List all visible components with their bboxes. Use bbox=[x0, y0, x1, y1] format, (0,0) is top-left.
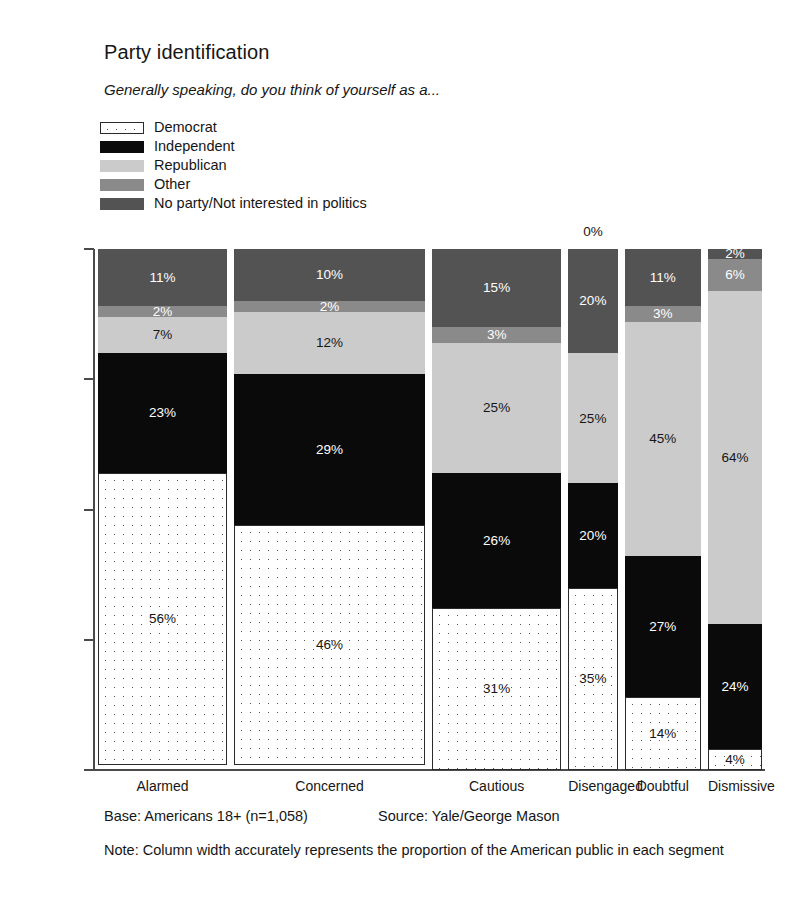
bar-segment-dismissive-noparty[interactable]: 2% bbox=[708, 249, 762, 259]
bar-doubtful[interactable]: 11%3%45%27%14% bbox=[625, 249, 701, 770]
bar-segment-concerned-other[interactable]: 2% bbox=[234, 301, 425, 311]
legend-label: Independent bbox=[154, 139, 235, 154]
segment-value-label: 3% bbox=[653, 307, 673, 321]
segment-value-label: 2% bbox=[725, 249, 745, 259]
bar-segment-dismissive-other[interactable]: 6% bbox=[708, 259, 762, 290]
chart-subtitle: Generally speaking, do you think of your… bbox=[104, 81, 440, 98]
segment-value-label: 45% bbox=[649, 432, 676, 446]
bar-segment-disengaged-noparty[interactable]: 20% bbox=[568, 249, 617, 353]
y-axis-tick bbox=[84, 248, 94, 250]
bar-segment-alarmed-noparty[interactable]: 11% bbox=[98, 249, 227, 306]
bar-dismissive[interactable]: 2%6%64%24%4% bbox=[708, 249, 762, 770]
bar-segment-cautious-democrat[interactable]: 31% bbox=[432, 608, 561, 770]
legend-item-noparty: No party/Not interested in politics bbox=[100, 194, 520, 213]
y-axis-tick bbox=[84, 769, 94, 771]
segment-value-label: 46% bbox=[316, 638, 343, 652]
bar-segment-doubtful-noparty[interactable]: 11% bbox=[625, 249, 701, 306]
segment-value-label: 14% bbox=[649, 727, 676, 741]
segment-value-label: 26% bbox=[483, 534, 510, 548]
bar-segment-concerned-democrat[interactable]: 46% bbox=[234, 525, 425, 765]
chart-page: Party identification Generally speaking,… bbox=[0, 0, 806, 903]
legend-swatch-independent-icon bbox=[100, 141, 144, 153]
legend-swatch-republican-icon bbox=[100, 160, 144, 172]
segment-value-label: 64% bbox=[721, 451, 748, 465]
bar-segment-disengaged-republican[interactable]: 25% bbox=[568, 353, 617, 483]
segment-value-label: 7% bbox=[153, 328, 173, 342]
annotation-zero-percent: 0% bbox=[568, 224, 617, 239]
segment-value-label: 15% bbox=[483, 281, 510, 295]
bar-segment-dismissive-democrat[interactable]: 4% bbox=[708, 749, 762, 770]
x-category-label-dismissive: Dismissive bbox=[708, 778, 762, 794]
legend-label: Other bbox=[154, 177, 190, 192]
segment-value-label: 11% bbox=[650, 271, 676, 285]
bar-alarmed[interactable]: 11%2%7%23%56% bbox=[98, 249, 227, 770]
plot-bars: 11%2%7%23%56%10%2%12%29%46%15%3%25%26%31… bbox=[95, 249, 765, 770]
bar-segment-doubtful-democrat[interactable]: 14% bbox=[625, 697, 701, 770]
x-category-label-disengaged: Disengaged bbox=[568, 778, 617, 794]
segment-value-label: 4% bbox=[725, 753, 745, 767]
legend-label: Democrat bbox=[154, 120, 217, 135]
segment-value-label: 25% bbox=[579, 412, 606, 426]
bar-disengaged[interactable]: 20%25%20%35% bbox=[568, 249, 617, 770]
segment-value-label: 56% bbox=[149, 612, 176, 626]
segment-value-label: 3% bbox=[487, 328, 507, 342]
legend-label: No party/Not interested in politics bbox=[154, 196, 367, 211]
segment-value-label: 10% bbox=[316, 268, 343, 282]
bar-segment-alarmed-democrat[interactable]: 56% bbox=[98, 473, 227, 765]
legend-item-republican: Republican bbox=[100, 156, 520, 175]
bar-segment-doubtful-independent[interactable]: 27% bbox=[625, 556, 701, 697]
bar-segment-cautious-noparty[interactable]: 15% bbox=[432, 249, 561, 327]
footnote-source: Source: Yale/George Mason bbox=[378, 808, 560, 824]
footnote-base: Base: Americans 18+ (n=1,058) bbox=[104, 808, 308, 824]
segment-value-label: 11% bbox=[150, 271, 176, 285]
segment-value-label: 24% bbox=[721, 680, 748, 694]
segment-value-label: 20% bbox=[579, 529, 606, 543]
legend-swatch-democrat-icon bbox=[100, 122, 144, 134]
x-category-label-doubtful: Doubtful bbox=[625, 778, 701, 794]
legend-item-democrat: Democrat bbox=[100, 118, 520, 137]
bar-segment-dismissive-republican[interactable]: 64% bbox=[708, 291, 762, 624]
bar-cautious[interactable]: 15%3%25%26%31% bbox=[432, 249, 561, 770]
legend-item-other: Other bbox=[100, 175, 520, 194]
segment-value-label: 27% bbox=[649, 620, 676, 634]
bar-segment-concerned-republican[interactable]: 12% bbox=[234, 312, 425, 375]
y-axis-tick bbox=[84, 378, 94, 380]
segment-value-label: 2% bbox=[153, 306, 173, 316]
bar-segment-doubtful-republican[interactable]: 45% bbox=[625, 322, 701, 556]
x-category-label-cautious: Cautious bbox=[432, 778, 561, 794]
bar-segment-alarmed-independent[interactable]: 23% bbox=[98, 353, 227, 473]
bar-segment-dismissive-independent[interactable]: 24% bbox=[708, 624, 762, 749]
segment-value-label: 35% bbox=[579, 672, 606, 686]
bar-segment-disengaged-democrat[interactable]: 35% bbox=[568, 588, 617, 770]
x-category-label-alarmed: Alarmed bbox=[98, 778, 227, 794]
bar-segment-cautious-other[interactable]: 3% bbox=[432, 327, 561, 343]
bar-segment-cautious-independent[interactable]: 26% bbox=[432, 473, 561, 608]
y-axis-tick bbox=[84, 509, 94, 511]
bar-segment-cautious-republican[interactable]: 25% bbox=[432, 343, 561, 473]
segment-value-label: 29% bbox=[316, 443, 343, 457]
bar-segment-alarmed-republican[interactable]: 7% bbox=[98, 317, 227, 353]
legend-item-independent: Independent bbox=[100, 137, 520, 156]
legend-swatch-other-icon bbox=[100, 179, 144, 191]
segment-value-label: 12% bbox=[316, 336, 343, 350]
segment-value-label: 23% bbox=[149, 406, 176, 420]
segment-value-label: 6% bbox=[725, 268, 745, 282]
bar-concerned[interactable]: 10%2%12%29%46% bbox=[234, 249, 425, 770]
bar-segment-concerned-independent[interactable]: 29% bbox=[234, 374, 425, 525]
legend-label: Republican bbox=[154, 158, 227, 173]
bar-segment-concerned-noparty[interactable]: 10% bbox=[234, 249, 425, 301]
x-category-label-concerned: Concerned bbox=[234, 778, 425, 794]
legend-swatch-noparty-icon bbox=[100, 198, 144, 210]
bar-segment-alarmed-other[interactable]: 2% bbox=[98, 306, 227, 316]
segment-value-label: 31% bbox=[483, 682, 510, 696]
page-title: Party identification bbox=[104, 41, 269, 64]
chart-legend: DemocratIndependentRepublicanOtherNo par… bbox=[100, 118, 520, 213]
y-axis-tick bbox=[84, 639, 94, 641]
footnote-note: Note: Column width accurately represents… bbox=[104, 840, 754, 861]
bar-segment-doubtful-other[interactable]: 3% bbox=[625, 306, 701, 322]
segment-value-label: 25% bbox=[483, 401, 510, 415]
segment-value-label: 2% bbox=[320, 301, 340, 311]
bar-segment-disengaged-independent[interactable]: 20% bbox=[568, 483, 617, 587]
segment-value-label: 20% bbox=[579, 294, 606, 308]
